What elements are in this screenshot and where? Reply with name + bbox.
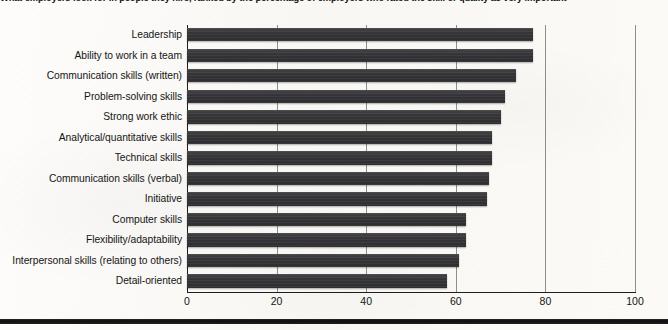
category-label: Technical skills — [0, 148, 182, 168]
x-axis-line — [187, 292, 636, 293]
bar — [187, 192, 487, 205]
bar-row — [187, 46, 635, 66]
category-label: Flexibility/adaptability — [0, 230, 182, 250]
bar — [187, 69, 516, 82]
x-axis-tick-labels: 020406080100 — [187, 295, 635, 311]
bar — [187, 274, 447, 287]
category-label: Computer skills — [0, 210, 182, 230]
plot-area — [187, 25, 635, 292]
bar — [187, 151, 492, 164]
category-label: Analytical/quantitative skills — [0, 128, 182, 148]
category-label: Problem-solving skills — [0, 87, 182, 107]
category-label: Leadership — [0, 25, 182, 45]
category-label-column: LeadershipAbility to work in a teamCommu… — [0, 25, 182, 292]
gridline-100 — [635, 25, 636, 292]
bar-row — [187, 107, 635, 127]
x-tick-label-0: 0 — [184, 295, 190, 307]
category-label: Interpersonal skills (relating to others… — [0, 251, 182, 271]
page-bottom-rule — [0, 319, 668, 324]
bar-row — [187, 25, 635, 45]
x-tick-label-100: 100 — [626, 295, 644, 307]
bar — [187, 213, 466, 226]
category-label: Strong work ethic — [0, 107, 182, 127]
category-label: Detail-oriented — [0, 271, 182, 291]
chart-caption: What employers look for in people they h… — [0, 0, 668, 7]
bar — [187, 254, 459, 267]
bar-row — [187, 169, 635, 189]
bar-row — [187, 148, 635, 168]
category-label: Initiative — [0, 189, 182, 209]
bar — [187, 90, 505, 103]
x-tick-label-80: 80 — [540, 295, 552, 307]
x-tick-label-20: 20 — [271, 295, 283, 307]
bar — [187, 172, 489, 185]
bar-row — [187, 87, 635, 107]
x-tick-label-60: 60 — [450, 295, 462, 307]
bar-row — [187, 66, 635, 86]
category-label: Communication skills (verbal) — [0, 169, 182, 189]
bar-row — [187, 210, 635, 230]
bar-row — [187, 230, 635, 250]
bar — [187, 131, 492, 144]
x-tick-label-40: 40 — [360, 295, 372, 307]
category-label: Ability to work in a team — [0, 46, 182, 66]
bar — [187, 110, 501, 123]
bar-row — [187, 189, 635, 209]
bar — [187, 49, 533, 62]
bar-row — [187, 128, 635, 148]
bar — [187, 233, 466, 246]
bar-row — [187, 251, 635, 271]
category-label: Communication skills (written) — [0, 66, 182, 86]
bar-row — [187, 271, 635, 291]
bar — [187, 28, 533, 41]
